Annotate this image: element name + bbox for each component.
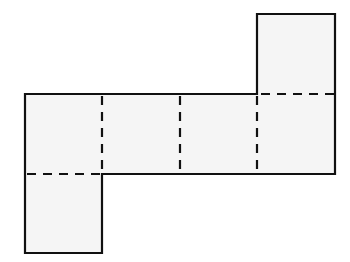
face-row-4 (257, 94, 335, 174)
cube-net-diagram (0, 0, 350, 262)
face-top-right (257, 14, 335, 94)
face-row-1 (25, 94, 102, 174)
face-row-2 (102, 94, 180, 174)
face-bottom-left (25, 174, 102, 253)
face-row-3 (180, 94, 257, 174)
